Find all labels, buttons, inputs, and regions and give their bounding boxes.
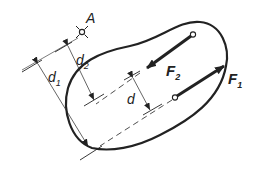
rigid-body-outline: [66, 22, 227, 150]
dimension-d1-label: d1: [48, 69, 61, 88]
point-a-label: A: [85, 10, 95, 26]
dimension-d2-label: d2: [76, 52, 89, 71]
force-f2-label: F2: [166, 62, 180, 82]
dimension-d-label: d: [127, 91, 136, 107]
f1-extension-line: [100, 100, 172, 146]
force-couple-diagram: A F2 F1 d2 d1 d: [0, 0, 262, 173]
line-through-a: [22, 38, 78, 70]
dimension-d1: [22, 60, 102, 160]
force-f1-label: F1: [228, 70, 242, 90]
point-a-marker: [76, 26, 88, 38]
